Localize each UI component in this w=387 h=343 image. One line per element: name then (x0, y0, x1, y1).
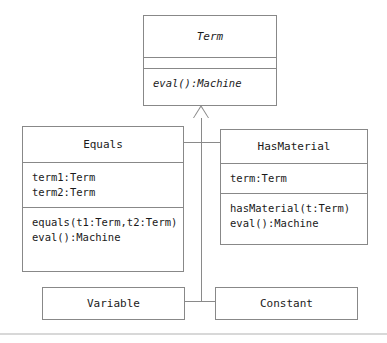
attribute-item: term:Term (230, 171, 367, 186)
class-box-hasmaterial[interactable]: HasMaterial term:Term hasMaterial(t:Term… (220, 129, 368, 245)
generalization-arrowhead-fill (194, 107, 208, 118)
class-box-constant[interactable]: Constant (215, 287, 358, 320)
class-name-constant: Constant (216, 288, 357, 319)
operation-item: eval():Machine (153, 76, 276, 91)
operation-item: equals(t1:Term,t2:Term) (32, 215, 183, 230)
operation-item: eval():Machine (230, 216, 367, 231)
footer-divider (0, 333, 387, 335)
operations-compartment-hasmaterial: hasMaterial(t:Term) eval():Machine (221, 193, 367, 238)
operations-compartment-equals: equals(t1:Term,t2:Term) eval():Machine (23, 207, 183, 252)
generalization-branch-lower (185, 301, 216, 302)
attributes-compartment-hasmaterial: term:Term (221, 163, 367, 193)
class-box-equals[interactable]: Equals term1:Term term2:Term equals(t1:T… (22, 126, 184, 272)
class-box-variable[interactable]: Variable (42, 287, 185, 320)
class-name-variable: Variable (43, 288, 184, 319)
operation-item: hasMaterial(t:Term) (230, 201, 367, 216)
class-name-hasmaterial: HasMaterial (221, 130, 367, 163)
operations-compartment-term: eval():Machine (144, 68, 276, 98)
attributes-compartment-equals: term1:Term term2:Term (23, 162, 183, 207)
generalization-trunk (201, 117, 202, 302)
attributes-compartment-term (144, 57, 276, 68)
class-name-equals: Equals (23, 127, 183, 162)
attribute-item: term2:Term (32, 185, 183, 200)
operation-item: eval():Machine (32, 230, 183, 245)
attribute-item: term1:Term (32, 170, 183, 185)
uml-class-diagram: Term eval():Machine Equals term1:Term te… (0, 0, 387, 343)
class-name-term: Term (144, 16, 276, 57)
generalization-branch-upper (184, 142, 221, 143)
class-box-term[interactable]: Term eval():Machine (143, 15, 277, 106)
